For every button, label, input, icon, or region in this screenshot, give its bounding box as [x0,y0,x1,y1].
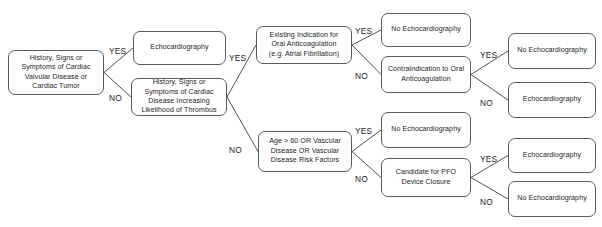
edge-pfo-no [471,178,508,200]
edge-thrombus-no [227,97,258,152]
node-echo1[interactable]: Echocardiography [133,31,226,65]
edge-label-contra-no: NO [480,98,493,108]
edge-label-root-no: NO [109,93,122,103]
node-label-pfo: Candidate for PFO Device Closure [396,168,456,187]
edge-label-oac-yes: YES [355,26,372,36]
edge-label-thrombus-yes: YES [229,53,246,63]
node-thrombus[interactable]: History, Signs or Symptoms of Cardiac Di… [131,78,227,116]
edge-label-age-yes: YES [355,126,372,136]
node-label-noecho2: No Echocardiography [517,46,587,55]
node-oac[interactable]: Existing Indication for Oral Anticoagula… [256,26,352,64]
node-label-noecho4: No Echocardiography [517,194,587,203]
node-label-contra: Contraindication to Oral Anticoagulation [388,65,464,84]
node-label-noecho1: No Echocardiography [391,25,461,34]
node-echo2[interactable]: Echocardiography [508,82,596,118]
node-noecho2[interactable]: No Echocardiography [508,33,596,69]
edge-label-pfo-yes: YES [480,154,497,164]
node-label-echo1: Echocardiography [150,43,208,52]
node-noecho3[interactable]: No Echocardiography [381,112,471,148]
edge-label-age-no: NO [355,174,368,184]
node-label-noecho3: No Echocardiography [391,125,461,134]
node-label-echo2: Echocardiography [523,95,581,104]
flowchart-canvas: History, Signs or Symptoms of Cardiac Va… [0,0,602,227]
node-label-echo3: Echocardiography [523,151,581,160]
edge-contra-no [471,75,508,101]
node-age[interactable]: Age > 60 OR Vascular Disease OR Vascular… [258,131,352,172]
edge-label-contra-yes: YES [480,50,497,60]
node-label-thrombus: History, Signs or Symptoms of Cardiac Di… [141,78,216,115]
node-label-root: History, Signs or Symptoms of Cardiac Va… [21,54,90,91]
node-label-age: Age > 60 OR Vascular Disease OR Vascular… [269,137,341,165]
node-echo3[interactable]: Echocardiography [508,138,596,173]
node-noecho4[interactable]: No Echocardiography [508,181,596,217]
node-pfo[interactable]: Candidate for PFO Device Closure [381,158,471,197]
node-label-oac: Existing Indication for Oral Anticoagula… [269,31,339,59]
node-noecho1[interactable]: No Echocardiography [381,13,471,47]
node-contra[interactable]: Contraindication to Oral Anticoagulation [381,56,471,93]
edge-label-root-yes: YES [109,46,126,56]
edge-label-thrombus-no: NO [229,145,242,155]
edge-label-pfo-no: NO [480,197,493,207]
edge-label-oac-no: NO [355,71,368,81]
node-root[interactable]: History, Signs or Symptoms of Cardiac Va… [8,50,104,95]
